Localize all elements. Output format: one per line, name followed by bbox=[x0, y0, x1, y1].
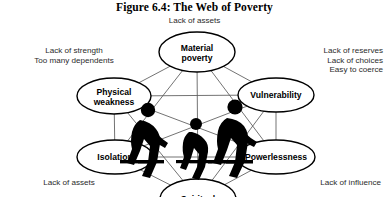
node-label2-physical-weakness: weakness bbox=[93, 97, 135, 107]
node-material-poverty[interactable]: Materialpoverty bbox=[159, 32, 235, 72]
node-physical-weakness[interactable]: Physicalweakness bbox=[77, 78, 151, 114]
node-vulnerability[interactable]: Vulnerability bbox=[238, 78, 314, 112]
person-figure-middle bbox=[176, 118, 212, 180]
web-line-vulnerability-to-physical-weakness bbox=[151, 95, 238, 96]
figure-container: Figure 6.4: The Web of Poverty Lack of a… bbox=[0, 0, 389, 197]
web-diagram: MaterialpovertyVulnerabilityPowerlessnes… bbox=[0, 0, 389, 197]
node-label-vulnerability: Vulnerability bbox=[250, 90, 301, 100]
node-label2-material-poverty: poverty bbox=[181, 53, 212, 63]
web-line-material-poverty-to-vulnerability bbox=[223, 66, 252, 82]
node-powerlessness[interactable]: Powerlessness bbox=[237, 140, 315, 174]
node-spiritual[interactable]: Spiritual bbox=[160, 179, 236, 197]
web-line-material-poverty-to-physical-weakness bbox=[139, 66, 170, 83]
node-label-material-poverty: Material bbox=[181, 43, 213, 53]
node-label-physical-weakness: Physical bbox=[97, 87, 132, 97]
node-label-powerlessness: Powerlessness bbox=[245, 152, 307, 162]
node-label-spiritual: Spiritual bbox=[181, 194, 215, 197]
